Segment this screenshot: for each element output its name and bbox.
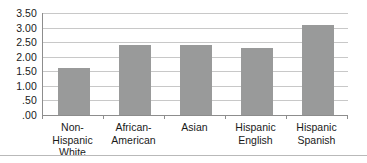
bar bbox=[302, 25, 334, 115]
bar bbox=[241, 48, 273, 115]
bar bbox=[119, 45, 151, 115]
y-tick-label: 3.50 bbox=[16, 8, 37, 18]
bar-series bbox=[43, 13, 348, 115]
category-label: Non-Hispanic White bbox=[42, 121, 103, 159]
y-tick-label: .00 bbox=[22, 110, 37, 120]
y-tick-label: 1.00 bbox=[16, 81, 37, 91]
x-tick bbox=[164, 115, 165, 119]
x-tick bbox=[103, 115, 104, 119]
category-label: Asian bbox=[164, 121, 225, 134]
bar bbox=[180, 45, 212, 115]
plot-area bbox=[42, 13, 348, 115]
y-tick-label: 2.00 bbox=[16, 52, 37, 62]
x-axis-ticks bbox=[42, 115, 348, 120]
y-tick-label: .50 bbox=[22, 95, 37, 105]
x-tick bbox=[347, 115, 348, 119]
x-tick bbox=[225, 115, 226, 119]
figure-bottom-divider bbox=[0, 155, 367, 156]
bar-chart-figure: 3.503.002.502.001.501.00.50.00 Non-Hispa… bbox=[0, 0, 367, 163]
y-tick-label: 1.50 bbox=[16, 66, 37, 76]
y-tick-label: 2.50 bbox=[16, 37, 37, 47]
category-label: African- American bbox=[103, 121, 164, 146]
x-tick bbox=[286, 115, 287, 119]
bar bbox=[58, 68, 90, 115]
y-axis: 3.503.002.502.001.501.00.50.00 bbox=[0, 0, 40, 163]
category-label: Hispanic Spanish bbox=[286, 121, 347, 146]
x-axis-category-labels: Non-Hispanic WhiteAfrican- AmericanAsian… bbox=[42, 121, 347, 155]
category-label: Hispanic English bbox=[225, 121, 286, 146]
x-tick bbox=[42, 115, 43, 119]
y-tick-label: 3.00 bbox=[16, 23, 37, 33]
